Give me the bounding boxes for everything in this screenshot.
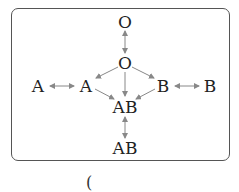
node-o-top: O <box>118 14 132 31</box>
arrow-b-ab <box>136 89 155 99</box>
node-a-mid: A <box>80 78 92 95</box>
node-ab-bottom: AB <box>113 140 138 157</box>
node-a-left: A <box>32 78 44 95</box>
caption-paren: ( <box>86 173 92 192</box>
arrow-o-a <box>96 67 118 78</box>
arrow-a-ab <box>95 89 114 99</box>
node-b-right: B <box>204 78 217 95</box>
arrow-o-b <box>132 67 154 78</box>
node-b-mid: B <box>157 78 170 95</box>
node-ab-mid: AB <box>113 99 138 116</box>
node-o-mid: O <box>118 55 132 72</box>
